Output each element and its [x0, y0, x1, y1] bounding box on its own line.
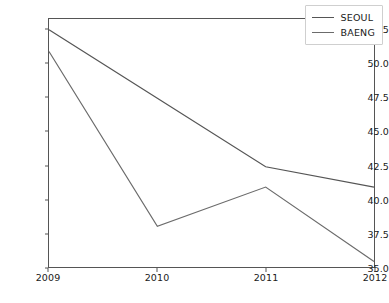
chart-figure: 35.037.540.042.545.047.550.052.5 2009201…	[0, 0, 389, 303]
x-tick-mark	[48, 268, 49, 272]
plot-area	[48, 18, 375, 268]
legend-line-swatch-baeng	[312, 32, 334, 33]
x-tick-label: 2010	[145, 272, 170, 283]
chart-legend: SEOUL BAENG	[305, 5, 384, 45]
x-tick-mark	[157, 268, 158, 272]
legend-label-baeng: BAENG	[341, 27, 376, 38]
x-tick-label: 2011	[254, 272, 279, 283]
legend-line-swatch-seoul	[312, 17, 334, 18]
x-tick-mark	[266, 268, 267, 272]
x-tick-mark	[375, 268, 376, 272]
legend-item-baeng: BAENG	[312, 25, 376, 40]
x-tick-label: 2009	[36, 272, 61, 283]
legend-label-seoul: SEOUL	[341, 12, 374, 23]
line-series-seoul	[49, 30, 374, 187]
line-series-group	[49, 19, 374, 267]
legend-item-seoul: SEOUL	[312, 10, 376, 25]
line-series-baeng	[49, 52, 374, 262]
x-tick-label: 2012	[363, 272, 388, 283]
